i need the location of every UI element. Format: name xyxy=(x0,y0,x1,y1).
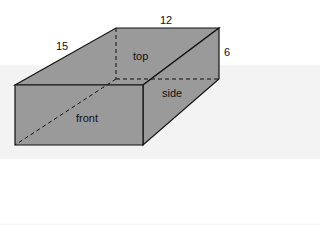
length-label: 15 xyxy=(56,40,68,52)
prism-diagram: 15 12 6 top side front xyxy=(0,0,245,159)
front-face-label: front xyxy=(76,112,98,124)
height-label: 6 xyxy=(224,46,230,58)
top-face-label: top xyxy=(133,50,148,62)
width-label: 12 xyxy=(160,14,172,26)
side-face-label: side xyxy=(162,87,182,99)
